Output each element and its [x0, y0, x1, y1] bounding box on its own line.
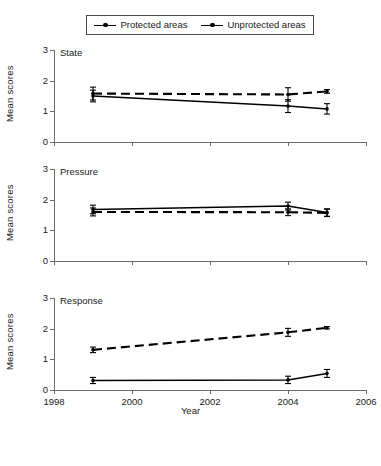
plot-area-state: State 0123	[54, 50, 366, 142]
y-tick-2	[50, 200, 54, 201]
y-tick-label-1: 1	[34, 225, 48, 235]
legend-entry-protected: Protected areas	[94, 20, 187, 30]
data-point-marker	[325, 90, 329, 94]
legend-label-protected: Protected areas	[120, 20, 187, 30]
y-tick-label-3: 3	[34, 293, 48, 303]
x-tick-2006	[366, 142, 367, 146]
x-tick-2000	[132, 261, 133, 265]
data-point-marker	[286, 210, 290, 214]
legend-symbol-dashed-line-icon	[201, 21, 223, 30]
y-tick-3	[50, 50, 54, 51]
data-point-marker	[325, 107, 329, 111]
y-axis-label-state: Mean scores	[2, 44, 16, 144]
data-point-marker	[286, 204, 290, 208]
series-line-protected-areas	[93, 96, 327, 109]
series-line-unprotected-areas	[93, 212, 327, 213]
y-tick-3	[50, 169, 54, 170]
y-tick-label-2: 2	[34, 76, 48, 86]
y-tick-3	[50, 298, 54, 299]
plot-area-response: Response 012319982000200220042006	[54, 298, 366, 390]
data-point-marker	[286, 104, 290, 108]
data-point-marker	[91, 210, 95, 214]
series-line-unprotected-areas	[93, 328, 327, 350]
x-tick-2004	[288, 142, 289, 146]
y-tick-2	[50, 81, 54, 82]
y-tick-label-2: 2	[34, 195, 48, 205]
y-tick-label-3: 3	[34, 45, 48, 55]
y-tick-1	[50, 359, 54, 360]
x-tick-2000	[132, 390, 133, 394]
series-layer-response	[54, 298, 366, 390]
y-tick-1	[50, 230, 54, 231]
y-axis-label-pressure: Mean scores	[2, 163, 16, 263]
x-tick-2004	[288, 261, 289, 265]
legend-symbol-solid-line-icon	[94, 21, 116, 30]
plot-area-pressure: Pressure 0123	[54, 169, 366, 261]
x-tick-2006	[366, 390, 367, 394]
x-tick-2002	[210, 390, 211, 394]
data-point-marker	[91, 92, 95, 96]
x-tick-2002	[210, 261, 211, 265]
legend-label-unprotected: Unprotected areas	[227, 20, 305, 30]
panel-pressure: Mean scores Pressure 0123	[0, 163, 381, 281]
y-tick-2	[50, 329, 54, 330]
x-tick-1998	[54, 142, 55, 146]
data-point-marker	[325, 211, 329, 215]
x-tick-2006	[366, 261, 367, 265]
series-layer-state	[54, 50, 366, 142]
y-tick-label-3: 3	[34, 164, 48, 174]
series-line-unprotected-areas	[93, 91, 327, 94]
data-point-marker	[91, 348, 95, 352]
figure: Protected areas Unprotected areas Mean s…	[0, 0, 381, 466]
data-point-marker	[286, 378, 290, 382]
data-point-marker	[325, 326, 329, 330]
data-point-marker	[91, 379, 95, 383]
data-point-marker	[325, 372, 329, 376]
chart-legend: Protected areas Unprotected areas	[86, 15, 314, 35]
panel-response: Mean scores Response 0123199820002002200…	[0, 292, 381, 410]
y-tick-label-0: 0	[34, 256, 48, 266]
data-point-marker	[286, 331, 290, 335]
y-tick-1	[50, 111, 54, 112]
y-tick-label-0: 0	[34, 385, 48, 395]
y-tick-label-1: 1	[34, 354, 48, 364]
x-tick-2000	[132, 142, 133, 146]
y-tick-label-2: 2	[34, 324, 48, 334]
y-axis-label-response: Mean scores	[2, 292, 16, 392]
series-layer-pressure	[54, 169, 366, 261]
x-tick-2002	[210, 142, 211, 146]
x-tick-1998	[54, 261, 55, 265]
data-point-marker	[286, 93, 290, 97]
x-tick-1998	[54, 390, 55, 394]
x-tick-2004	[288, 390, 289, 394]
y-tick-label-1: 1	[34, 106, 48, 116]
x-axis-title: Year	[0, 405, 381, 416]
panel-state: Mean scores State 0123	[0, 44, 381, 162]
series-line-protected-areas	[93, 373, 327, 380]
legend-entry-unprotected: Unprotected areas	[201, 20, 305, 30]
y-tick-label-0: 0	[34, 137, 48, 147]
